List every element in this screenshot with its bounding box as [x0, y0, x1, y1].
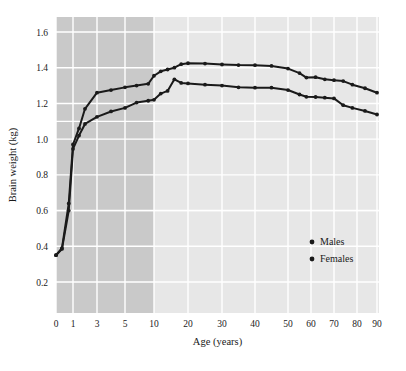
x-tick-50: 50 — [283, 319, 293, 329]
legend-marker-males-icon — [310, 240, 315, 245]
data-point-females — [77, 134, 81, 138]
data-point-males — [323, 77, 327, 81]
data-point-males — [237, 63, 241, 67]
x-tick-40: 40 — [250, 319, 260, 329]
data-point-females — [123, 106, 127, 110]
plot-background-group — [56, 17, 379, 313]
x-tick-10: 10 — [149, 319, 159, 329]
data-point-females — [314, 95, 318, 99]
data-point-females — [67, 209, 71, 213]
data-point-females — [95, 115, 99, 119]
data-point-males — [179, 62, 183, 66]
data-point-females — [286, 88, 290, 92]
data-point-males — [220, 63, 224, 67]
data-point-females — [220, 84, 224, 88]
chart-canvas: 0135102030405060708090 0.20.40.60.81.01.… — [0, 0, 406, 371]
data-point-males — [123, 85, 127, 89]
data-point-females — [323, 96, 327, 100]
x-axis-title: Age (years) — [193, 336, 243, 348]
x-tick-30: 30 — [217, 319, 227, 329]
x-tick-5: 5 — [123, 319, 128, 329]
data-point-females — [186, 82, 190, 86]
y-tick-1.4: 1.4 — [36, 63, 48, 73]
data-point-females — [173, 77, 177, 81]
x-tick-1: 1 — [71, 319, 76, 329]
data-point-females — [237, 85, 241, 89]
data-point-males — [146, 82, 150, 86]
y-axis-tick-labels: 0.20.40.60.81.01.21.41.6 — [36, 28, 48, 288]
data-point-males — [270, 64, 274, 68]
y-axis-title: Brain weight (kg) — [7, 127, 19, 202]
data-point-females — [60, 247, 64, 251]
data-point-males — [375, 91, 379, 95]
data-point-males — [186, 61, 190, 65]
y-tick-1.6: 1.6 — [36, 28, 48, 38]
legend-marker-females-icon — [310, 257, 315, 262]
data-point-males — [95, 91, 99, 95]
data-point-females — [341, 103, 345, 107]
x-tick-90: 90 — [372, 319, 382, 329]
data-point-males — [173, 66, 177, 70]
x-tick-3: 3 — [95, 319, 100, 329]
data-point-females — [270, 86, 274, 90]
y-tick-0.2: 0.2 — [36, 278, 48, 288]
data-point-males — [77, 127, 81, 131]
data-point-females — [135, 101, 139, 105]
x-tick-0: 0 — [54, 319, 59, 329]
data-point-males — [305, 76, 309, 80]
x-axis-tick-labels: 0135102030405060708090 — [54, 319, 382, 329]
data-point-males — [286, 67, 290, 71]
data-point-males — [166, 68, 170, 72]
data-point-males — [203, 62, 207, 66]
data-point-females — [179, 81, 183, 85]
data-point-females — [203, 83, 207, 87]
data-point-males — [253, 63, 257, 67]
data-point-males — [135, 84, 139, 88]
data-point-males — [109, 88, 113, 92]
data-point-females — [146, 99, 150, 103]
data-point-females — [332, 97, 336, 101]
legend-label-females: Females — [320, 253, 353, 264]
data-point-males — [341, 79, 345, 83]
data-point-males — [363, 86, 367, 90]
x-tick-70: 70 — [329, 319, 339, 329]
data-point-males — [314, 75, 318, 79]
data-point-males — [298, 71, 302, 75]
y-tick-1.2: 1.2 — [36, 99, 48, 109]
data-point-females — [159, 92, 163, 96]
x-tick-20: 20 — [183, 319, 193, 329]
data-point-females — [298, 93, 302, 97]
y-tick-0.8: 0.8 — [36, 170, 48, 180]
data-point-females — [253, 86, 257, 90]
data-point-females — [109, 110, 113, 114]
data-point-females — [83, 122, 87, 126]
data-point-females — [166, 89, 170, 93]
data-point-females — [54, 253, 58, 257]
data-point-females — [351, 106, 355, 110]
data-point-males — [83, 107, 87, 111]
y-tick-0.4: 0.4 — [36, 242, 48, 252]
data-point-females — [152, 98, 156, 102]
brain-weight-chart: 0135102030405060708090 0.20.40.60.81.01.… — [0, 0, 406, 371]
data-point-males — [159, 69, 163, 73]
data-point-females — [71, 147, 75, 151]
legend-label-males: Males — [320, 236, 345, 247]
x-tick-60: 60 — [306, 319, 316, 329]
x-tick-80: 80 — [352, 319, 362, 329]
data-point-males — [152, 74, 156, 78]
data-point-males — [332, 78, 336, 82]
data-point-females — [363, 109, 367, 113]
y-tick-0.6: 0.6 — [36, 206, 48, 216]
data-point-males — [351, 83, 355, 87]
data-point-females — [375, 113, 379, 117]
data-point-females — [305, 95, 309, 99]
y-tick-1.0: 1.0 — [36, 135, 48, 145]
